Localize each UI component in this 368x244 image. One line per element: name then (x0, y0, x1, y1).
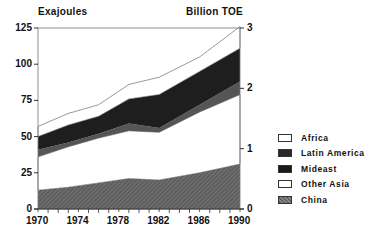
legend-swatch (278, 165, 292, 173)
left-y-tick-label: 25 (21, 167, 32, 178)
left-y-tick-label: 0 (26, 203, 32, 214)
x-tick-label: 1978 (107, 215, 129, 226)
legend-item-other-asia: Other Asia (278, 177, 365, 193)
legend-item-latin-america: Latin America (278, 146, 365, 162)
legend-label: Latin America (301, 148, 365, 158)
legend-label: Africa (301, 133, 329, 143)
legend: AfricaLatin AmericaMideastOther AsiaChin… (278, 130, 365, 208)
legend-swatch (278, 134, 292, 142)
legend-label: China (301, 195, 328, 205)
x-tick-label: 1982 (147, 215, 169, 226)
left-y-tick-label: 75 (21, 94, 32, 105)
right-y-tick-label: 2 (247, 82, 253, 93)
legend-swatch (278, 196, 292, 204)
left-y-tick-label: 100 (15, 58, 32, 69)
legend-swatch (278, 149, 292, 157)
right-y-tick-label: 1 (247, 143, 253, 154)
x-tick-label: 1970 (26, 215, 48, 226)
left-y-tick-label: 50 (21, 131, 32, 142)
right-y-tick-label: 3 (247, 22, 253, 33)
left-y-tick-label: 125 (15, 22, 32, 33)
x-tick-label: 1986 (188, 215, 210, 226)
right-y-tick-label: 0 (247, 203, 253, 214)
legend-label: Other Asia (301, 179, 350, 189)
legend-item-china: China (278, 192, 365, 208)
x-tick-label: 1990 (228, 215, 250, 226)
x-tick-label: 1974 (66, 215, 88, 226)
legend-swatch (278, 180, 292, 188)
legend-label: Mideast (301, 164, 337, 174)
legend-item-africa: Africa (278, 130, 365, 146)
legend-item-mideast: Mideast (278, 161, 365, 177)
